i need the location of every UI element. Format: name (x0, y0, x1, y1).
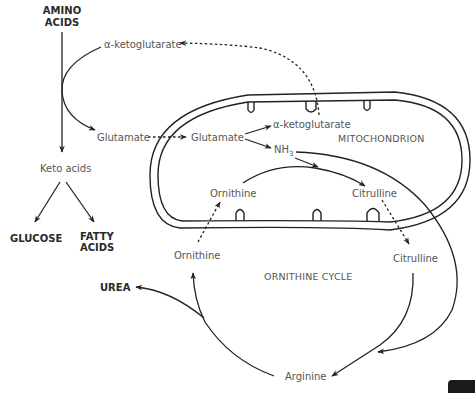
arrow-citrulline-to-arginine (332, 273, 413, 376)
arrow-arginine-to-ornithine (193, 273, 274, 376)
label-akg-mito: α-ketoglutarate (273, 119, 351, 130)
arrow-ornithine-transport (198, 202, 220, 242)
label-nh3: NH3 (274, 144, 293, 158)
label-amino-acids-1: AMINO (43, 5, 81, 16)
arrow-glutamate-to-akg (245, 126, 271, 134)
arrow-keto-to-fatty (66, 182, 94, 222)
label-keto-acids: Keto acids (40, 163, 91, 174)
arrow-akg-to-glutamate (62, 47, 101, 130)
arrow-ornithine-to-citrulline (243, 167, 365, 186)
label-glutamate-mito: Glutamate (191, 132, 244, 143)
label-citrulline-mito: Citrulline (352, 188, 397, 199)
label-glucose: GLUCOSE (10, 233, 62, 244)
mitochondrion-membrane (150, 92, 470, 230)
label-urea: UREA (100, 282, 131, 293)
label-citrulline-cytosol: Citrulline (393, 253, 438, 264)
label-glutamate-cytosol: Glutamate (97, 132, 150, 143)
label-amino-acids-2: ACIDS (45, 17, 79, 28)
label-fatty-acids-1: FATTY (80, 231, 115, 242)
label-ornithine-mito: Ornithine (210, 188, 256, 199)
label-mitochondrion: MITOCHONDRION (338, 133, 425, 144)
label-akg-cytosol: α-ketoglutarate (104, 39, 182, 50)
arrow-akg-transport (180, 43, 319, 115)
label-ornithine-cytosol: Ornithine (174, 250, 220, 261)
label-fatty-acids-2: ACIDS (80, 242, 114, 253)
label-arginine: Arginine (285, 371, 327, 382)
arrow-nh3-to-arginine (296, 152, 457, 352)
corner-tab (448, 380, 475, 393)
label-ornithine-cycle: ORNITHINE CYCLE (264, 271, 353, 282)
arrow-glutamate-to-nh3 (245, 139, 271, 148)
arrow-keto-to-glucose (35, 182, 60, 222)
arrow-nh3-to-cycle (295, 158, 318, 167)
arrow-arginine-to-urea (136, 287, 204, 318)
ornithine-cycle-diagram: AMINO ACIDS α-ketoglutarate Glutamate Gl… (0, 0, 475, 393)
